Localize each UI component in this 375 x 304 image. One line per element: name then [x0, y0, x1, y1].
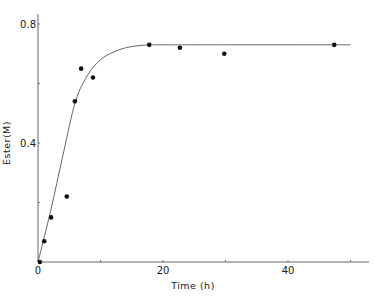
fitted-curve	[38, 45, 351, 262]
data-point	[178, 46, 183, 51]
x-tick-label: 20	[157, 265, 170, 276]
x-tick-label: 0	[35, 265, 41, 276]
data-point	[91, 75, 96, 80]
x-tick-label: 40	[282, 265, 295, 276]
ester-vs-time-chart: 020400.40.8 Time (h) Ester(M)	[0, 0, 375, 304]
y-axis-title: Ester(M)	[1, 121, 12, 165]
x-axis-title: Time (h)	[170, 280, 215, 291]
data-point	[73, 99, 78, 104]
data-point	[38, 260, 43, 265]
data-point	[332, 43, 337, 48]
tick-labels: 020400.40.8	[20, 19, 294, 276]
y-tick-label: 0.8	[20, 19, 36, 30]
data-point	[64, 194, 69, 199]
axes	[38, 14, 369, 262]
data-point	[42, 239, 47, 244]
data-point	[147, 43, 152, 48]
data-points	[38, 43, 337, 265]
data-point	[222, 51, 227, 56]
data-point	[79, 66, 84, 71]
y-tick-label: 0.4	[20, 138, 36, 149]
data-point	[49, 215, 54, 220]
tick-marks	[38, 24, 351, 262]
